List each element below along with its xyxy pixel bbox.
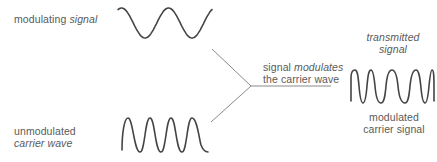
modulating-signal-wave: [118, 8, 212, 38]
label-text: modulating: [14, 13, 69, 25]
transmitted-signal-wave: [351, 70, 434, 103]
label-line1-italic: transmitted: [366, 31, 419, 43]
label-modulating-signal: modulating signal: [14, 13, 97, 25]
label-line1: unmodulated: [14, 125, 76, 137]
connector-lower: [211, 86, 251, 122]
label-unmodulated-carrier: unmodulated carrier wave: [14, 125, 76, 149]
label-italic-text: signal: [69, 13, 97, 25]
label-modulated-carrier: modulated carrier signal: [355, 111, 433, 135]
label-line1-italic: modulates: [294, 61, 343, 73]
label-line2-italic: signal: [379, 43, 407, 55]
carrier-wave: [122, 118, 208, 152]
label-signal-modulates: signal modulates the carrier wave: [263, 61, 343, 85]
label-line2: carrier signal: [355, 123, 433, 135]
label-line2: the carrier wave: [263, 73, 343, 85]
label-line1-plain: signal: [263, 61, 294, 73]
label-line2-italic: carrier wave: [14, 137, 72, 149]
label-line1: modulated: [355, 111, 433, 123]
label-transmitted-signal: transmitted signal: [362, 31, 424, 55]
connector-upper: [212, 49, 251, 86]
